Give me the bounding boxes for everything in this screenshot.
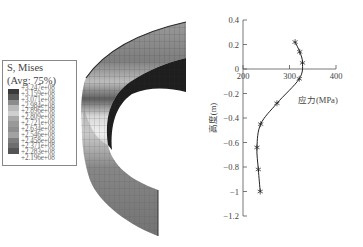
fea-shell-model: 0.40.20−0.2−0.4−0.6−0.8−1−1.2 200300400 … [0,0,363,247]
stress-height-chart: 0.40.20−0.2−0.4−0.6−0.8−1−1.2 200300400 … [208,15,342,221]
asterisk-marker [254,144,259,150]
asterisk-marker [292,39,297,45]
x-axis-ticks: 200300400 [237,65,343,81]
y-axis-label: 高度(m) [208,103,218,133]
asterisk-marker [258,189,263,195]
asterisk-marker [297,49,302,55]
y-tick-label: −0.6 [224,138,239,148]
x-tick-label: 200 [237,71,250,81]
asterisk-marker [256,166,261,172]
y-tick-label: −1 [230,187,239,197]
y-tick-label: −1.2 [224,211,239,221]
y-tick-label: −0.4 [224,113,240,123]
y-axis-ticks: 0.40.20−0.2−0.4−0.6−0.8−1−1.2 [224,15,247,221]
y-tick-label: 0.2 [228,40,239,50]
asterisk-marker [258,121,263,127]
y-tick-label: −0.2 [224,89,239,99]
x-tick-label: 300 [283,71,296,81]
data-markers [254,39,305,194]
y-tick-label: 0.4 [228,15,239,25]
y-tick-label: −0.8 [224,162,239,172]
x-axis-label: 应力(MPa) [298,95,338,105]
stress-curve [257,42,303,191]
x-tick-label: 400 [330,71,343,81]
asterisk-marker [300,60,305,66]
